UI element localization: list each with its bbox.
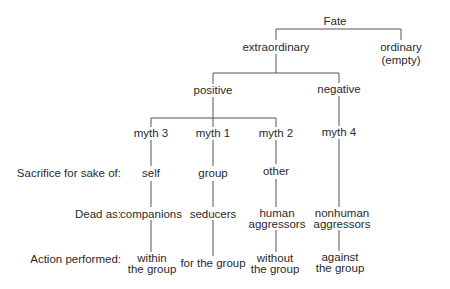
node-fate: Fate	[323, 15, 346, 28]
node-myth-4: myth 4	[322, 126, 357, 139]
node-ordinary: ordinary	[380, 41, 422, 54]
cell-dead-as-myth-2-line2: aggressors	[249, 218, 306, 231]
row-label-action: Action performed:	[30, 253, 121, 266]
cell-dead-as-myth-1: seducers	[190, 208, 237, 221]
cell-action-myth-2-line2: the group	[251, 263, 300, 276]
cell-dead-as-myth-4-line2: aggressors	[314, 218, 371, 231]
cell-sacrifice-myth-1: group	[198, 167, 227, 180]
node-myth-3: myth 3	[134, 127, 169, 140]
cell-action-myth-4-line2: the group	[316, 262, 365, 275]
row-label-dead-as: Dead as:	[75, 208, 121, 221]
row-label-sacrifice: Sacrifice for sake of:	[17, 167, 121, 180]
cell-action-myth-3-line2: the group	[128, 263, 177, 276]
node-positive: positive	[194, 84, 233, 97]
node-ordinary-sublabel: (empty)	[382, 54, 421, 67]
node-myth-2: myth 2	[259, 127, 294, 140]
cell-sacrifice-myth-2: other	[263, 165, 289, 178]
node-myth-1: myth 1	[196, 127, 231, 140]
node-negative: negative	[317, 83, 360, 96]
node-extraordinary: extraordinary	[242, 41, 309, 54]
cell-dead-as-myth-3: companions	[120, 208, 182, 221]
cell-sacrifice-myth-3: self	[142, 167, 160, 180]
cell-action-myth-1: for the group	[180, 257, 245, 270]
